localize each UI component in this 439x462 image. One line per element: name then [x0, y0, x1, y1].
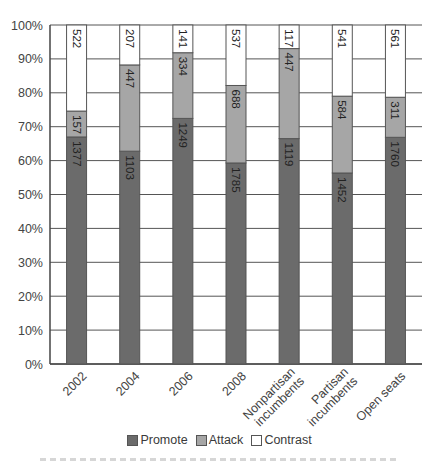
stacked-bar-chart: 0%10%20%30%40%50%60%70%80%90%100% 137715…: [0, 0, 439, 430]
legend-label: Contrast: [264, 433, 311, 447]
y-tick-label: 20%: [18, 290, 43, 304]
y-tick-label: 90%: [18, 52, 43, 66]
segment-value-label: 1119: [283, 143, 295, 167]
x-tick-label: Partisanincumbents: [296, 365, 360, 429]
segment-value-label: 117: [283, 29, 295, 47]
segment-value-label: 537: [230, 29, 242, 48]
x-axis: 2002200420062008NonpartisanincumbentsPar…: [60, 365, 408, 430]
bar-nonpartisan-incumbents: 1119447117: [279, 25, 299, 364]
bar-open-seats: 1760311561: [385, 25, 405, 364]
segment-value-label: 157: [71, 115, 83, 134]
legend-swatch-promote: [127, 435, 138, 446]
segment-promote: [67, 137, 87, 364]
y-tick-label: 100%: [11, 19, 43, 33]
legend-label: Promote: [140, 433, 187, 447]
y-tick-label: 10%: [18, 324, 43, 338]
legend-swatch-contrast: [251, 435, 262, 446]
segment-value-label: 311: [389, 101, 401, 119]
y-tick-label: 0%: [25, 358, 43, 372]
x-tick-label: Nonpartisanincumbents: [240, 365, 307, 430]
segment-value-label: 207: [124, 29, 136, 48]
segment-value-label: 561: [389, 29, 401, 48]
x-tick-label: 2006: [166, 369, 196, 399]
segment-value-label: 1452: [336, 177, 348, 203]
cut-off-caption: [40, 455, 400, 462]
segment-promote: [173, 118, 193, 364]
segment-promote: [120, 151, 140, 364]
segment-value-label: 1103: [124, 155, 136, 180]
legend-item-contrast: Contrast: [251, 433, 311, 447]
bar-2004: 1103447207: [120, 25, 140, 364]
legend-label: Attack: [209, 433, 244, 447]
y-tick-label: 30%: [18, 256, 43, 270]
bar-2008: 1785688537: [226, 25, 246, 364]
segment-value-label: 1249: [177, 122, 189, 148]
y-tick-label: 40%: [18, 222, 43, 236]
segment-value-label: 447: [124, 69, 136, 88]
segment-value-label: 522: [71, 29, 83, 48]
segment-value-label: 447: [283, 53, 295, 72]
segment-value-label: 584: [336, 100, 348, 120]
x-tick-label: 2004: [113, 369, 143, 399]
segment-value-label: 541: [336, 29, 348, 48]
segment-value-label: 141: [177, 29, 189, 48]
legend: Promote Attack Contrast: [0, 433, 439, 447]
segment-value-label: 1760: [389, 141, 401, 167]
x-tick-label: 2002: [60, 369, 90, 399]
y-tick-label: 50%: [18, 188, 43, 202]
bar-2002: 1377157522: [67, 25, 87, 364]
y-tick-label: 80%: [18, 86, 43, 100]
legend-swatch-attack: [196, 435, 207, 446]
segment-promote: [279, 139, 299, 364]
segment-value-label: 688: [230, 89, 242, 108]
x-tick-label: 2008: [219, 369, 249, 399]
bar-2006: 1249334141: [173, 25, 193, 364]
legend-item-promote: Promote: [127, 433, 187, 447]
segment-value-label: 1785: [230, 167, 242, 193]
y-tick-label: 70%: [18, 120, 43, 134]
x-tick-label: Open seats: [353, 369, 408, 424]
segment-value-label: 1377: [71, 141, 83, 167]
segment-promote: [226, 163, 246, 364]
legend-item-attack: Attack: [196, 433, 244, 447]
y-tick-label: 60%: [18, 154, 43, 168]
segment-promote: [385, 137, 405, 364]
segment-value-label: 334: [177, 57, 189, 77]
bar-partisan-incumbents: 1452584541: [332, 25, 352, 364]
